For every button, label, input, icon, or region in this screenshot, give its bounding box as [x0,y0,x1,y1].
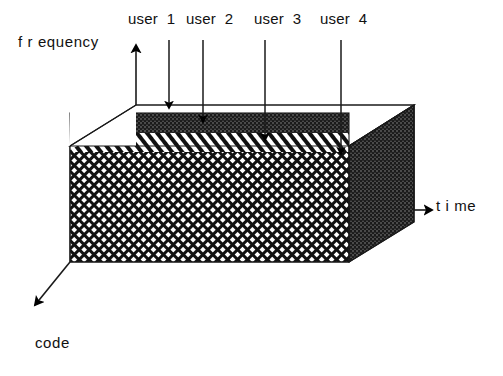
cube-diagram [0,0,503,376]
axis-time-arrow [414,105,432,210]
callout-label-user-3: user 3 [254,10,301,27]
axis-code-arrow [35,262,70,305]
axis-label-time: t i me [436,197,476,214]
callout-label-user-4: user 4 [320,10,367,27]
callout-label-user-1: user 1 [128,10,175,27]
axis-label-frequency: f r equency [18,33,99,50]
axis-label-code: code [35,334,70,351]
callout-label-user-2: user 2 [186,10,233,27]
figure-root: f r equency t i me code user 1 user 2 us… [0,0,503,376]
front-band-crosshatch [70,152,349,262]
